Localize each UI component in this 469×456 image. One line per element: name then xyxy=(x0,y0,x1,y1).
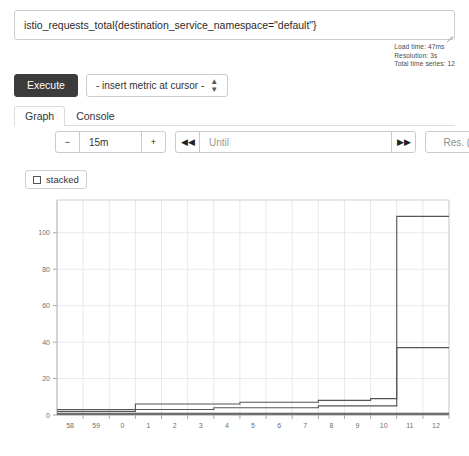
svg-text:6: 6 xyxy=(277,422,281,429)
svg-text:3: 3 xyxy=(199,422,203,429)
svg-text:2: 2 xyxy=(173,422,177,429)
svg-text:58: 58 xyxy=(66,422,74,429)
chevron-updown-icon: ▲▼ xyxy=(210,78,218,94)
svg-text:40: 40 xyxy=(42,339,50,346)
svg-text:80: 80 xyxy=(42,266,50,273)
svg-text:12: 12 xyxy=(432,422,440,429)
view-tabs: Graph Console xyxy=(14,104,455,126)
svg-text:4: 4 xyxy=(225,422,229,429)
stat-resolution: Resolution: 3s xyxy=(394,52,455,61)
stat-total-time-series: Total time series: 12 xyxy=(394,60,455,69)
until-input[interactable]: Until xyxy=(199,131,392,153)
svg-text:10: 10 xyxy=(380,422,388,429)
tab-graph[interactable]: Graph xyxy=(14,106,65,126)
svg-text:59: 59 xyxy=(92,422,100,429)
range-value-input[interactable]: 15m xyxy=(79,131,142,153)
prometheus-graph-page: istio_requests_total{destination_service… xyxy=(0,0,469,456)
range-decrease-button[interactable]: − xyxy=(55,131,80,153)
range-duration-group: − 15m + xyxy=(55,131,166,153)
query-input[interactable]: istio_requests_total{destination_service… xyxy=(14,10,455,40)
svg-text:0: 0 xyxy=(46,412,50,419)
svg-text:8: 8 xyxy=(329,422,333,429)
resolution-input[interactable]: Res. (s) xyxy=(425,131,469,153)
svg-text:11: 11 xyxy=(406,422,413,429)
execute-button[interactable]: Execute xyxy=(14,74,78,97)
step-forward-icon[interactable]: ▶▶ xyxy=(391,131,416,153)
stacked-label: stacked xyxy=(46,174,79,185)
range-controls: − 15m + ◀◀ Until ▶▶ Res. (s) xyxy=(55,131,469,153)
graph-panel: 02040608010058590123456789101112 xyxy=(20,198,450,446)
svg-text:100: 100 xyxy=(38,229,50,236)
range-increase-button[interactable]: + xyxy=(141,131,166,153)
metric-select-label: - insert metric at cursor - xyxy=(96,80,204,91)
query-stats: Load time: 47ms Resolution: 3s Total tim… xyxy=(394,43,455,69)
svg-text:7: 7 xyxy=(303,422,307,429)
execute-row: Execute - insert metric at cursor - ▲▼ xyxy=(14,74,228,97)
svg-text:20: 20 xyxy=(42,375,50,382)
stacked-toggle[interactable]: stacked xyxy=(25,170,87,189)
svg-text:0: 0 xyxy=(120,422,124,429)
svg-text:1: 1 xyxy=(147,422,151,429)
tab-console[interactable]: Console xyxy=(65,106,126,126)
time-navigation-group: ◀◀ Until ▶▶ xyxy=(175,131,416,153)
graph-chart[interactable]: 02040608010058590123456789101112 xyxy=(20,198,450,446)
step-backward-icon[interactable]: ◀◀ xyxy=(175,131,200,153)
metric-select[interactable]: - insert metric at cursor - ▲▼ xyxy=(86,74,228,97)
svg-text:5: 5 xyxy=(251,422,255,429)
svg-text:9: 9 xyxy=(356,422,360,429)
checkbox-icon[interactable] xyxy=(33,176,41,184)
svg-text:60: 60 xyxy=(42,302,50,309)
stat-load-time: Load time: 47ms xyxy=(394,43,455,52)
query-expression-container: istio_requests_total{destination_service… xyxy=(14,10,455,40)
